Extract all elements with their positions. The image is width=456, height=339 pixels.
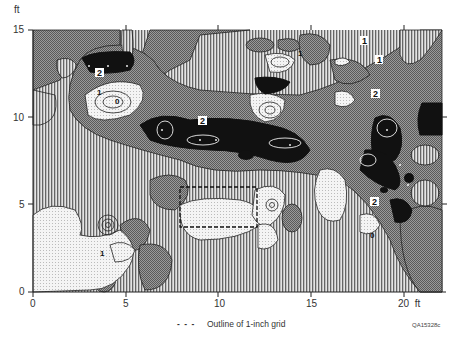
- svg-text:0: 0: [115, 97, 120, 106]
- svg-text:2: 2: [372, 197, 377, 207]
- svg-text:2: 2: [200, 116, 205, 126]
- svg-text:2: 2: [373, 89, 378, 99]
- svg-text:0: 0: [370, 231, 375, 240]
- svg-text:1: 1: [362, 36, 367, 46]
- svg-text:1: 1: [100, 249, 105, 258]
- legend-label: Outline of 1-inch grid: [207, 319, 285, 329]
- svg-text:2: 2: [97, 68, 102, 78]
- contour-map: 2 2 2 2 1 1 1 1 1 0 0: [0, 0, 456, 339]
- svg-text:1: 1: [97, 88, 102, 97]
- figure-code: QA15328c: [412, 322, 440, 328]
- svg-text:1: 1: [298, 49, 303, 58]
- legend-dashed-symbol: - - -: [177, 319, 195, 329]
- svg-text:1: 1: [377, 55, 382, 65]
